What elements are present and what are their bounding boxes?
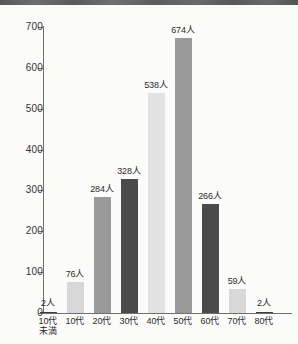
- bar: [40, 312, 57, 314]
- x-category-label-line1: 80代: [254, 316, 273, 326]
- bar: [148, 93, 165, 313]
- y-tick: 400: [0, 150, 43, 151]
- bar-value-label: 538人: [132, 81, 180, 90]
- bar: [175, 38, 192, 313]
- y-tick-label: 100: [11, 267, 43, 277]
- y-tick: 0: [0, 313, 43, 314]
- x-axis-line: [43, 313, 292, 314]
- y-tick-label: 400: [11, 145, 43, 155]
- y-tick-label: 500: [11, 104, 43, 114]
- y-tick-label: 200: [11, 226, 43, 236]
- y-tick: 300: [0, 190, 43, 191]
- bar: [67, 282, 84, 313]
- y-tick: 200: [0, 231, 43, 232]
- bar: [94, 197, 111, 313]
- bar: [256, 312, 273, 314]
- y-tick: 100: [0, 272, 43, 273]
- y-tick-label: 300: [11, 185, 43, 195]
- bar-value-label: 284人: [78, 185, 126, 194]
- bar-value-label: 674人: [159, 26, 207, 35]
- bar-value-label: 76人: [51, 270, 99, 279]
- bar-value-label: 59人: [213, 277, 261, 286]
- x-category-label: 80代: [244, 316, 284, 326]
- y-tick-label: 700: [11, 22, 43, 32]
- y-tick: 600: [0, 68, 43, 69]
- y-axis-line: [43, 26, 44, 314]
- bar: [121, 179, 138, 313]
- bar-chart: 0100200300400500600700 2人76人284人328人538人…: [0, 0, 298, 344]
- y-tick: 700: [0, 27, 43, 28]
- bar-value-label: 2人: [240, 299, 288, 308]
- y-tick-label: 600: [11, 63, 43, 73]
- bar: [202, 204, 219, 313]
- bar-value-label: 2人: [24, 299, 72, 308]
- x-category-label-line2: 未満: [28, 326, 68, 336]
- bar-value-label: 328人: [105, 167, 153, 176]
- y-tick: 500: [0, 109, 43, 110]
- bar-value-label: 266人: [186, 192, 234, 201]
